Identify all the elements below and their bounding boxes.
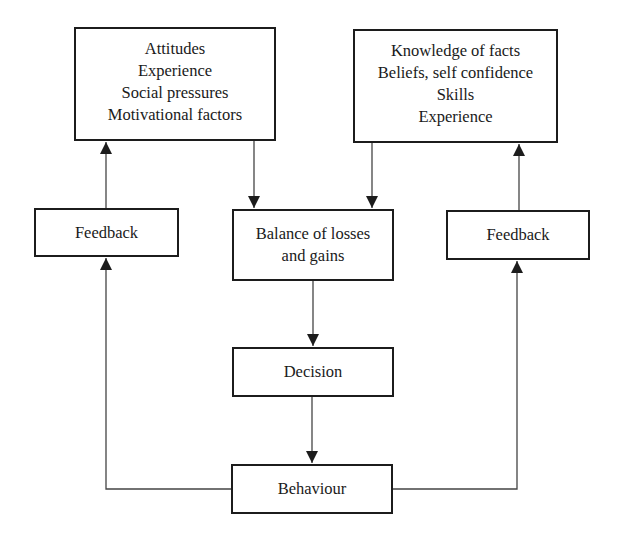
knowledge-line-4: Experience xyxy=(418,106,492,128)
attitudes-line-3: Social pressures xyxy=(122,82,229,104)
balance-line-2: and gains xyxy=(282,245,345,267)
feedback-right-box: Feedback xyxy=(446,210,590,260)
balance-line-1: Balance of losses xyxy=(256,223,371,245)
feedback-right-label: Feedback xyxy=(486,224,549,246)
knowledge-box: Knowledge of facts Beliefs, self confide… xyxy=(353,29,558,143)
arrow-behaviour-to-feedback-left xyxy=(106,258,231,489)
knowledge-line-2: Beliefs, self confidence xyxy=(378,62,533,84)
balance-box: Balance of losses and gains xyxy=(232,209,394,281)
behaviour-label: Behaviour xyxy=(278,478,347,500)
decision-label: Decision xyxy=(284,361,343,383)
behaviour-decision-diagram: Attitudes Experience Social pressures Mo… xyxy=(0,0,624,536)
feedback-left-box: Feedback xyxy=(34,208,179,257)
attitudes-box: Attitudes Experience Social pressures Mo… xyxy=(74,27,276,141)
behaviour-box: Behaviour xyxy=(231,464,393,514)
attitudes-line-4: Motivational factors xyxy=(108,104,242,126)
arrow-behaviour-to-feedback-right xyxy=(393,261,517,489)
attitudes-line-1: Attitudes xyxy=(145,38,206,60)
attitudes-line-2: Experience xyxy=(138,60,212,82)
feedback-left-label: Feedback xyxy=(75,222,138,244)
decision-box: Decision xyxy=(232,347,394,397)
knowledge-line-1: Knowledge of facts xyxy=(391,40,520,62)
knowledge-line-3: Skills xyxy=(437,84,475,106)
